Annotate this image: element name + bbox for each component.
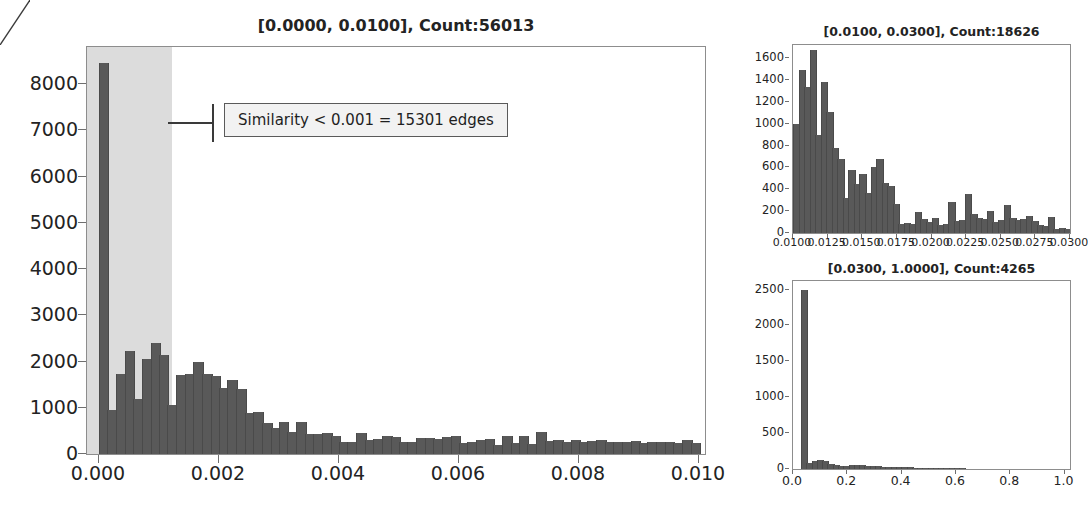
y-tick-label: 2500 [755,282,784,296]
y-tick-label: 0 [66,442,78,464]
bottom-right-x-axis-labels: 0.00.20.40.60.81.0 [792,473,1071,491]
top-right-y-tick-marks [785,44,791,234]
y-tick-label: 4000 [30,257,78,279]
y-tick-label: 1200 [755,94,784,108]
y-tick-mark [78,453,86,454]
y-tick-label: 400 [762,181,784,195]
x-tick-label: 0.010 [671,462,725,484]
histogram-bar [1064,229,1071,233]
y-tick-mark [785,145,789,146]
x-tick-mark [827,234,828,238]
x-tick-label: 0.004 [311,462,365,484]
x-tick-label: 0.6 [945,473,965,488]
x-tick-label: 0.8 [999,473,1019,488]
y-tick-mark [785,324,789,325]
bottom-right-plot-title: [0.0300, 1.0000], Count:4265 [792,261,1071,276]
x-tick-mark [965,234,966,238]
y-tick-mark [78,361,86,362]
y-tick-mark [78,268,86,269]
top-right-y-axis-labels: 02004006008001000120014001600 [730,44,784,234]
y-tick-label: 2000 [755,317,784,331]
y-tick-mark [78,407,86,408]
y-tick-label: 7000 [30,118,78,140]
histogram-figure: [0.0000, 0.0100], Count:56013 0100020003… [0,0,1088,520]
top-right-x-tick-marks [792,234,1071,238]
x-tick-mark [1064,470,1065,474]
bottom-right-x-tick-marks [792,470,1071,474]
y-tick-label: 5000 [30,211,78,233]
y-tick-mark [785,360,789,361]
x-tick-mark [1034,234,1035,238]
y-tick-mark [785,57,789,58]
bottom-right-y-axis-labels: 05001000150020002500 [730,280,784,470]
x-tick-mark [1000,234,1001,238]
top-right-bar-series [793,45,1070,233]
x-tick-mark [901,470,902,474]
y-tick-mark [78,314,86,315]
y-tick-label: 1400 [755,72,784,86]
y-tick-mark [785,289,789,290]
y-tick-mark [78,83,86,84]
y-tick-label: 1000 [755,116,784,130]
y-tick-mark [785,232,789,233]
x-tick-mark [792,234,793,238]
y-tick-label: 200 [762,203,784,217]
x-tick-mark [792,470,793,474]
x-tick-label: 0.2 [836,473,856,488]
y-tick-label: 500 [762,425,784,439]
x-tick-mark [338,455,339,463]
y-tick-label: 6000 [30,165,78,187]
x-tick-label: 1.0 [1054,473,1074,488]
y-tick-label: 600 [762,159,784,173]
y-tick-mark [785,166,789,167]
main-y-tick-marks [78,46,86,455]
top-right-plot-title: [0.0100, 0.0300], Count:18626 [792,24,1071,39]
y-tick-mark [785,396,789,397]
x-tick-label: 0.006 [431,462,485,484]
bottom-right-histogram-panel: [0.0300, 1.0000], Count:4265 05001000150… [730,258,1088,520]
x-tick-mark [698,455,699,463]
annotation-leader-line [168,122,213,124]
histogram-bar [691,443,702,454]
y-tick-label: 800 [762,138,784,152]
main-x-tick-marks [86,455,706,462]
top-right-histogram-panel: [0.0100, 0.0300], Count:18626 0200400600… [730,0,1088,258]
x-tick-label: 0.0 [782,473,802,488]
x-tick-mark [458,455,459,463]
x-tick-label: 0.4 [891,473,911,488]
y-tick-mark [785,123,789,124]
y-tick-label: 8000 [30,72,78,94]
x-tick-mark [1069,234,1070,238]
y-tick-label: 1000 [755,389,784,403]
bottom-right-y-tick-marks [785,280,791,470]
x-tick-label: 0.000 [71,462,125,484]
bottom-right-plot-axes [792,280,1071,470]
bottom-right-bar-series [793,281,1070,469]
x-tick-label: 0.008 [551,462,605,484]
y-tick-mark [785,101,789,102]
x-tick-mark [98,455,99,463]
similarity-threshold-annotation: Similarity < 0.001 = 15301 edges [224,103,508,137]
x-tick-mark [578,455,579,463]
y-tick-mark [785,210,789,211]
y-tick-mark [785,468,789,469]
y-tick-label: 3000 [30,303,78,325]
y-tick-mark [785,432,789,433]
y-tick-label: 2000 [30,350,78,372]
x-tick-mark [861,234,862,238]
y-tick-mark [785,188,789,189]
main-y-axis-labels: 010002000300040005000600070008000 [0,46,78,455]
y-tick-label: 1500 [755,353,784,367]
annotation-leader-diagonal [0,0,30,45]
y-tick-mark [78,222,86,223]
histogram-bar [801,290,808,469]
y-tick-mark [78,176,86,177]
x-tick-mark [1009,470,1010,474]
y-tick-label: 1000 [30,396,78,418]
y-tick-mark [78,129,86,130]
top-right-x-axis-labels: 0.01000.01250.01500.01750.02000.02250.02… [792,236,1071,254]
x-tick-mark [896,234,897,238]
y-tick-label: 1600 [755,50,784,64]
y-tick-mark [785,79,789,80]
main-x-axis-labels: 0.0000.0020.0040.0060.0080.010 [86,462,706,490]
